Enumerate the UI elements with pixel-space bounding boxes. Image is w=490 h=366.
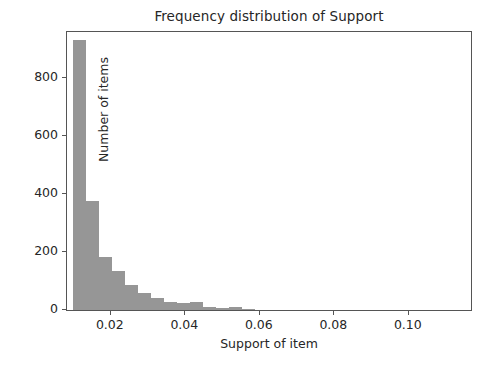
histogram-bar [99, 257, 112, 310]
x-axis-tick: 0.02 [110, 310, 111, 315]
x-axis-tick-label: 0.04 [170, 317, 198, 332]
histogram-bar [203, 307, 216, 310]
x-axis-tick: 0.04 [184, 310, 185, 315]
x-axis-tick: 0.10 [408, 310, 409, 315]
y-axis-tick-label: 0 [50, 301, 58, 316]
y-axis-tick: 400 [62, 193, 67, 194]
y-axis-tick: 200 [62, 251, 67, 252]
histogram-bar [164, 302, 177, 310]
x-axis-label: Support of item [66, 336, 472, 351]
x-axis-tick-label: 0.08 [319, 317, 347, 332]
histogram-bar [190, 302, 203, 310]
histogram-bar [138, 293, 151, 310]
figure-canvas: Frequency distribution of Support 020040… [0, 0, 490, 366]
y-axis-tick: 0 [62, 309, 67, 310]
histogram-bar [73, 40, 86, 310]
y-axis-tick-label: 800 [34, 69, 58, 84]
x-axis-tick-label: 0.06 [245, 317, 273, 332]
y-axis-tick-label: 600 [34, 127, 58, 142]
y-axis-tick: 600 [62, 135, 67, 136]
histogram-bar [216, 308, 229, 310]
x-axis-tick: 0.08 [333, 310, 334, 315]
histogram-bar [151, 298, 164, 310]
y-axis-tick-label: 400 [34, 185, 58, 200]
x-axis-tick-label: 0.02 [96, 317, 124, 332]
histogram-bar [112, 271, 125, 310]
histogram-bar [242, 309, 255, 310]
histogram-bar [86, 201, 99, 310]
histogram-bars [67, 32, 471, 310]
y-axis-tick: 800 [62, 77, 67, 78]
histogram-bar [177, 303, 190, 310]
plot-area: 0200400600800 0.020.040.060.080.10 Numbe… [66, 31, 472, 311]
histogram-bar [125, 285, 138, 310]
y-axis-tick-label: 200 [34, 243, 58, 258]
page-title: Frequency distribution of Support [66, 8, 472, 24]
x-axis-tick: 0.06 [259, 310, 260, 315]
histogram-bar [229, 307, 242, 310]
x-axis-tick-label: 0.10 [394, 317, 422, 332]
y-axis-label: Number of items [96, 30, 111, 190]
